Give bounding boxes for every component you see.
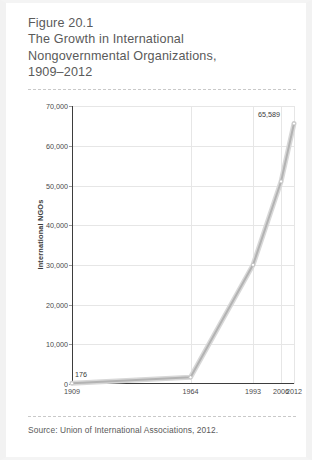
- x-tick-label: 1964: [183, 387, 199, 396]
- x-tick-label: 2012: [286, 387, 302, 396]
- figure-container: Figure 20.1 The Growth in International …: [28, 15, 296, 451]
- data-point-label: 65,589: [258, 110, 280, 119]
- source-note: Source: Union of International Associati…: [28, 425, 296, 435]
- vertical-gridline: [294, 106, 295, 384]
- y-axis-title: International NGOs: [36, 175, 45, 295]
- chart-plot-region: International NGOs 010,00020,00030,00040…: [28, 94, 296, 416]
- source-divider: [28, 416, 296, 417]
- series-line: [72, 106, 294, 384]
- y-tick-label: 20,000: [46, 300, 68, 309]
- x-tick-label: 1993: [245, 387, 261, 396]
- data-point-label: 176: [75, 370, 87, 379]
- y-tick-label: 10,000: [46, 340, 68, 349]
- figure-title-line-2: Nongovernmental Organizations,: [28, 48, 296, 64]
- plot-inner: 010,00020,00030,00040,00050,00060,00070,…: [72, 106, 294, 384]
- title-divider: [28, 89, 296, 90]
- y-tick-label: 30,000: [46, 261, 68, 270]
- y-tick-label: 60,000: [46, 141, 68, 150]
- x-tick-label: 1909: [64, 387, 80, 396]
- figure-number: Figure 20.1: [28, 15, 296, 31]
- y-tick-label: 70,000: [46, 102, 68, 111]
- y-tick-label: 50,000: [46, 181, 68, 190]
- figure-title: Figure 20.1 The Growth in International …: [28, 15, 296, 80]
- figure-title-line-3: 1909–2012: [28, 64, 296, 80]
- y-tick-label: 40,000: [46, 221, 68, 230]
- figure-page: Figure 20.1 The Growth in International …: [0, 0, 312, 460]
- figure-title-line-1: The Growth in International: [28, 31, 296, 47]
